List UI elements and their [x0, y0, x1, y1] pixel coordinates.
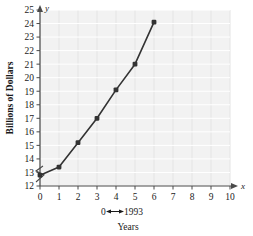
y-tick-label: 23 — [25, 32, 35, 42]
x-tick-label: 7 — [171, 192, 176, 202]
y-tick-label: 15 — [25, 141, 35, 151]
x-axis-title: Years — [117, 222, 139, 232]
y-tick-label: 18 — [25, 100, 35, 110]
data-point — [95, 116, 100, 121]
chart-figure: y x 1213141516171819202122232425 0123456… — [0, 0, 253, 236]
x-tick-label: 2 — [76, 192, 81, 202]
data-point — [114, 87, 119, 92]
y-axis-arrow-icon — [37, 5, 43, 12]
x-tick-label: 5 — [133, 192, 138, 202]
annotation-to-label: 1993 — [124, 207, 143, 217]
x-axis-ticks: 012345678910 — [38, 186, 235, 202]
y-tick-label: 22 — [25, 46, 35, 56]
y-tick-label: 12 — [25, 181, 35, 191]
x-tick-label: 10 — [225, 192, 235, 202]
y-tick-label: 16 — [25, 127, 35, 137]
x-tick-label: 9 — [209, 192, 214, 202]
y-tick-label: 20 — [25, 73, 35, 83]
x-tick-label: 0 — [38, 192, 43, 202]
origin-year-annotation: 0 1993 — [101, 207, 143, 217]
y-tick-label: 17 — [25, 114, 35, 124]
data-point — [38, 173, 43, 178]
data-point — [76, 140, 81, 145]
x-tick-label: 4 — [114, 192, 119, 202]
x-axis-arrow-icon — [231, 183, 238, 189]
data-point — [152, 20, 157, 25]
y-tick-label: 13 — [25, 168, 35, 178]
x-axis-variable-label: x — [240, 181, 245, 191]
y-tick-label: 25 — [25, 5, 35, 15]
line-chart: y x 1213141516171819202122232425 0123456… — [0, 0, 253, 236]
x-tick-label: 1 — [57, 192, 62, 202]
y-tick-label: 14 — [25, 154, 35, 164]
y-axis-variable-label: y — [44, 3, 49, 13]
data-point — [133, 62, 138, 67]
x-tick-label: 8 — [190, 192, 195, 202]
annotation-from-label: 0 — [101, 207, 106, 217]
data-point — [57, 165, 62, 170]
double-arrow-icon — [106, 210, 124, 214]
y-tick-label: 24 — [25, 19, 35, 29]
y-tick-label: 19 — [25, 87, 35, 97]
x-tick-label: 3 — [95, 192, 100, 202]
x-tick-label: 6 — [152, 192, 157, 202]
y-axis-ticks: 1213141516171819202122232425 — [25, 5, 41, 191]
y-axis-title: Billions of Dollars — [5, 61, 15, 134]
y-tick-label: 21 — [25, 60, 35, 70]
